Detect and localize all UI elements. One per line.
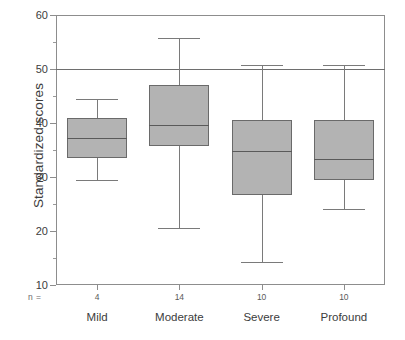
x-axis-label-moderate: Moderate (155, 311, 204, 323)
whisker-cap-upper (323, 65, 365, 66)
whisker-cap-upper (76, 99, 118, 100)
median-line (67, 138, 127, 139)
box-moderate (149, 85, 209, 145)
whisker-upper (179, 38, 180, 86)
whisker-cap-upper (241, 65, 283, 66)
sample-size-value: 4 (95, 292, 100, 302)
x-axis-tick (344, 285, 345, 290)
whisker-cap-upper (158, 38, 200, 39)
reference-line (56, 69, 385, 70)
x-axis-tick (97, 285, 98, 290)
whisker-cap-lower (323, 209, 365, 210)
box-severe (232, 120, 292, 195)
whisker-lower (344, 180, 345, 210)
x-axis-tick (262, 285, 263, 290)
x-axis-label-severe: Severe (243, 311, 279, 323)
whisker-lower (262, 195, 263, 263)
y-axis-tick-label: 20 (24, 225, 48, 237)
y-axis-tick-label: 60 (24, 9, 48, 21)
x-axis-label-mild: Mild (87, 311, 108, 323)
y-axis-tick-label: 50 (24, 63, 48, 75)
whisker-cap-lower (76, 180, 118, 181)
whisker-cap-lower (158, 228, 200, 229)
whisker-upper (97, 99, 98, 118)
sample-size-value: 10 (257, 292, 266, 302)
whisker-cap-lower (241, 262, 283, 263)
x-axis-label-profound: Profound (321, 311, 368, 323)
whisker-lower (97, 158, 98, 180)
whisker-upper (344, 65, 345, 120)
y-axis-tick-label: 10 (24, 279, 48, 291)
sample-size-value: 14 (175, 292, 184, 302)
box-plot-chart: Standardized scores 605040302010 n = 4Mi… (0, 0, 405, 340)
median-line (232, 151, 292, 152)
sample-size-value: 10 (339, 292, 348, 302)
y-axis-tick-group: 605040302010 (0, 0, 48, 340)
whisker-lower (179, 146, 180, 229)
y-axis-tick-label: 30 (24, 171, 48, 183)
median-line (314, 159, 374, 160)
median-line (149, 125, 209, 126)
box-profound (314, 120, 374, 180)
y-axis-tick-major (50, 285, 56, 286)
y-axis-tick-label: 40 (24, 117, 48, 129)
x-axis-tick (179, 285, 180, 290)
whisker-upper (262, 65, 263, 120)
n-equals-label: n = (28, 292, 42, 302)
